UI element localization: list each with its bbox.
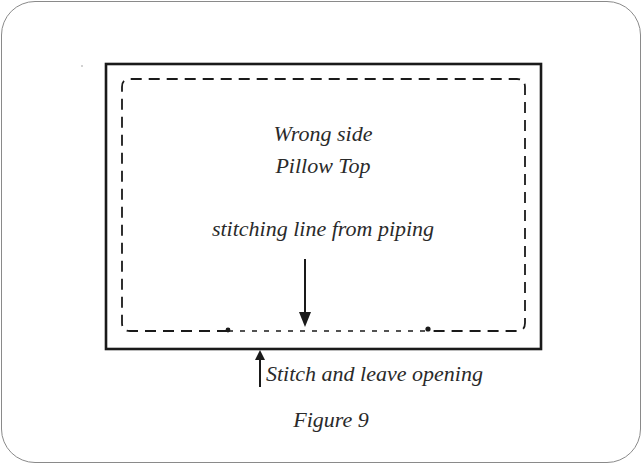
stitch-opening-label: Stitch and leave opening [266, 361, 483, 387]
opening-marker-left [226, 328, 231, 333]
opening-marker-right [425, 326, 430, 331]
pillow-top-outline [106, 64, 541, 349]
stitching-line-label: stitching line from piping [212, 216, 434, 242]
arrow-up-icon [255, 350, 265, 387]
figure-caption: Figure 9 [293, 407, 369, 433]
arrow-down-icon [299, 259, 311, 327]
stitching-line [122, 79, 525, 331]
wrong-side-label: Wrong side [274, 121, 373, 147]
pillow-top-label: Pillow Top [275, 153, 370, 179]
